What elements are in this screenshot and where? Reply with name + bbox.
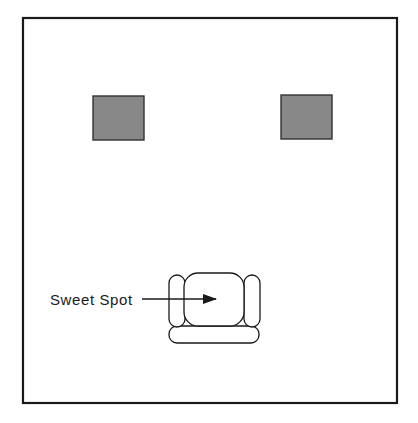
chair-base: [169, 326, 259, 343]
room-layout-diagram: Sweet Spot: [0, 0, 418, 423]
sweet-spot-label: Sweet Spot: [50, 291, 133, 308]
room-outline: [23, 18, 397, 403]
armchair: [169, 273, 260, 343]
left-speaker: [93, 96, 144, 140]
chair-right-armrest: [244, 275, 260, 327]
chair-left-armrest: [169, 275, 185, 327]
right-speaker: [281, 95, 332, 139]
